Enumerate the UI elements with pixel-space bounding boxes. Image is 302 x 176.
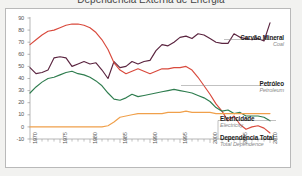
y-axis-tick-label: 10	[8, 111, 24, 117]
y-axis-tick-label: -10	[8, 136, 24, 142]
x-axis-tick-label: 2000	[212, 132, 218, 144]
x-axis-tick-label: 1980	[92, 132, 98, 144]
y-axis-tick-label: 50	[8, 63, 24, 69]
legend-label-pt: Eletricidade	[220, 115, 255, 122]
legend-item-1: PetróleoPetroleum	[259, 80, 284, 93]
x-axis-tick-label: 1995	[182, 132, 188, 144]
legend-label-pt: Carvão Mineral	[240, 34, 284, 41]
y-axis-tick-label: 90	[8, 15, 24, 21]
legend-label-en: Coal	[240, 41, 284, 47]
legend-label-en: Electricity	[220, 122, 255, 128]
x-axis-tick-label: 1990	[152, 132, 158, 144]
legend-item-2: EletricidadeElectricity	[220, 115, 255, 128]
x-axis-tick-label: 1985	[122, 132, 128, 144]
legend-label-pt: Petróleo	[259, 80, 284, 87]
legend-label-en: Total Dependence	[220, 141, 274, 147]
y-axis-tick-label: 80	[8, 27, 24, 33]
legend-label-en: Petroleum	[259, 87, 284, 93]
chart-title: Dependência Externa de Energia	[0, 0, 302, 6]
chart-root: Dependência Externa de Energia 908070605…	[0, 0, 302, 176]
y-axis-tick-label: 40	[8, 75, 24, 81]
y-axis-tick-label: 70	[8, 39, 24, 45]
x-axis-tick-label: 1970	[32, 132, 38, 144]
legend-label-pt: Dependência Total	[220, 134, 274, 141]
legend-item-0: Carvão MineralCoal	[240, 34, 284, 47]
legend-item-3: Dependência TotalTotal Dependence	[220, 134, 274, 147]
y-axis-tick-label: 0	[8, 124, 24, 130]
y-axis-tick-label: 20	[8, 99, 24, 105]
x-axis-tick-label: 1975	[62, 132, 68, 144]
y-axis-tick-label: 60	[8, 51, 24, 57]
chart-frame: 9080706050403020100-10 19701975198019851…	[5, 8, 291, 168]
y-axis-tick-label: 30	[8, 87, 24, 93]
series-line-0	[30, 23, 270, 79]
